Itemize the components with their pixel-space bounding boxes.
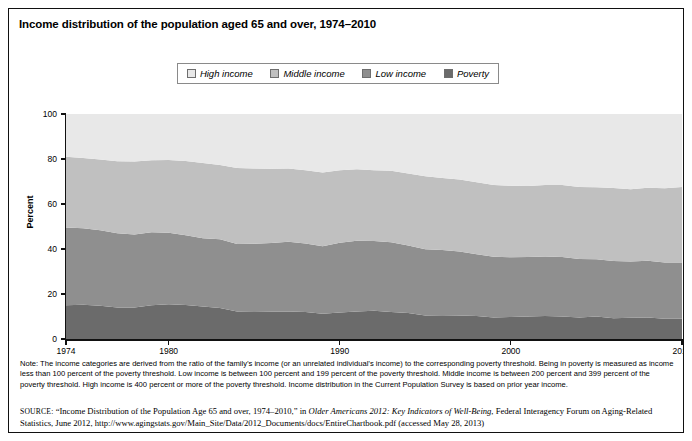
stacked-area-plot bbox=[66, 114, 682, 339]
figure-title: Income distribution of the population ag… bbox=[19, 18, 376, 30]
x-tick-2010 bbox=[681, 340, 682, 345]
x-tick-label-1980: 1980 bbox=[149, 346, 189, 356]
legend-item-middle-income: Middle income bbox=[270, 68, 344, 79]
x-tick-label-1990: 1990 bbox=[320, 346, 360, 356]
y-tick-label-80: 80 bbox=[29, 154, 57, 164]
legend-label-high-income: High income bbox=[200, 68, 253, 79]
y-tick-100 bbox=[61, 113, 65, 114]
legend-swatch-middle-income bbox=[270, 69, 279, 78]
source-prefix: SOURCE: bbox=[20, 407, 53, 416]
legend-item-high-income: High income bbox=[187, 68, 253, 79]
y-tick-20 bbox=[61, 293, 65, 294]
y-tick-40 bbox=[61, 248, 65, 249]
plot-svg bbox=[66, 114, 682, 339]
y-tick-label-40: 40 bbox=[29, 244, 57, 254]
x-tick-1980 bbox=[168, 340, 169, 345]
chart-legend: High income Middle income Low income Pov… bbox=[177, 63, 499, 84]
x-tick-label-2000: 2000 bbox=[491, 346, 531, 356]
legend-item-low-income: Low income bbox=[362, 68, 426, 79]
legend-swatch-high-income bbox=[187, 69, 196, 78]
y-tick-label-100: 100 bbox=[29, 109, 57, 119]
y-tick-label-20: 20 bbox=[29, 289, 57, 299]
legend-swatch-poverty bbox=[444, 69, 453, 78]
legend-label-poverty: Poverty bbox=[457, 68, 489, 79]
legend-swatch-low-income bbox=[362, 69, 371, 78]
x-tick-label-2010: 2010 bbox=[662, 346, 684, 356]
source-part-1: “Income Distribution of the Population A… bbox=[53, 406, 308, 416]
x-tick-1974 bbox=[65, 340, 66, 345]
y-tick-60 bbox=[61, 203, 65, 204]
figure-source: SOURCE: “Income Distribution of the Popu… bbox=[20, 406, 674, 429]
legend-label-low-income: Low income bbox=[375, 68, 426, 79]
y-tick-80 bbox=[61, 158, 65, 159]
x-tick-label-1974: 1974 bbox=[46, 346, 86, 356]
y-tick-label-0: 0 bbox=[29, 334, 57, 344]
figure-note: Note: The income categories are derived … bbox=[20, 359, 674, 390]
source-italic-title: Older Americans 2012: Key Indicators of … bbox=[309, 406, 492, 416]
y-axis-label: Percent bbox=[25, 182, 35, 242]
x-axis-line bbox=[65, 339, 683, 341]
y-tick-0 bbox=[61, 338, 65, 339]
legend-item-poverty: Poverty bbox=[444, 68, 489, 79]
legend-label-middle-income: Middle income bbox=[283, 68, 344, 79]
x-tick-1990 bbox=[339, 340, 340, 345]
figure-panel: Income distribution of the population ag… bbox=[8, 8, 684, 433]
y-tick-label-60: 60 bbox=[29, 199, 57, 209]
x-tick-2000 bbox=[510, 340, 511, 345]
